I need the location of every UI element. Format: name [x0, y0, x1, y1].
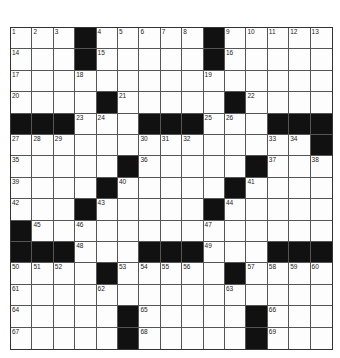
grid-cell[interactable]: [118, 135, 139, 156]
grid-cell[interactable]: [97, 135, 118, 156]
grid-cell[interactable]: 47: [204, 221, 225, 242]
grid-cell[interactable]: 3: [54, 28, 75, 49]
grid-cell[interactable]: [182, 328, 203, 349]
grid-cell[interactable]: 18: [75, 71, 96, 92]
grid-cell[interactable]: [204, 263, 225, 284]
grid-cell[interactable]: [289, 199, 310, 220]
grid-cell[interactable]: 65: [139, 306, 160, 327]
grid-cell[interactable]: [97, 242, 118, 263]
grid-cell[interactable]: [118, 49, 139, 70]
grid-cell[interactable]: [139, 199, 160, 220]
grid-cell[interactable]: [75, 156, 96, 177]
grid-cell[interactable]: [32, 178, 53, 199]
grid-cell[interactable]: [139, 71, 160, 92]
grid-cell[interactable]: 13: [311, 28, 332, 49]
grid-cell[interactable]: 52: [54, 263, 75, 284]
grid-cell[interactable]: 25: [204, 114, 225, 135]
grid-cell[interactable]: [54, 92, 75, 113]
grid-cell[interactable]: 48: [75, 242, 96, 263]
grid-cell[interactable]: [204, 135, 225, 156]
grid-cell[interactable]: 12: [289, 28, 310, 49]
grid-cell[interactable]: [161, 328, 182, 349]
grid-cell[interactable]: [246, 135, 267, 156]
grid-cell[interactable]: [182, 156, 203, 177]
grid-cell[interactable]: [246, 49, 267, 70]
grid-cell[interactable]: [182, 49, 203, 70]
grid-cell[interactable]: [289, 92, 310, 113]
grid-cell[interactable]: [225, 135, 246, 156]
grid-cell[interactable]: [161, 71, 182, 92]
grid-cell[interactable]: 33: [268, 135, 289, 156]
grid-cell[interactable]: 32: [182, 135, 203, 156]
grid-cell[interactable]: 23: [75, 114, 96, 135]
grid-cell[interactable]: 60: [311, 263, 332, 284]
grid-cell[interactable]: [289, 178, 310, 199]
grid-cell[interactable]: [161, 178, 182, 199]
grid-cell[interactable]: [139, 285, 160, 306]
grid-cell[interactable]: [161, 49, 182, 70]
grid-cell[interactable]: [246, 71, 267, 92]
grid-cell[interactable]: [204, 306, 225, 327]
grid-cell[interactable]: [139, 178, 160, 199]
grid-cell[interactable]: [311, 328, 332, 349]
grid-cell[interactable]: 49: [204, 242, 225, 263]
grid-cell[interactable]: [289, 156, 310, 177]
grid-cell[interactable]: 10: [246, 28, 267, 49]
grid-cell[interactable]: [118, 199, 139, 220]
grid-cell[interactable]: 36: [139, 156, 160, 177]
grid-cell[interactable]: [246, 221, 267, 242]
grid-cell[interactable]: [311, 92, 332, 113]
grid-cell[interactable]: 1: [11, 28, 32, 49]
grid-cell[interactable]: [118, 71, 139, 92]
grid-cell[interactable]: [182, 285, 203, 306]
grid-cell[interactable]: [268, 285, 289, 306]
grid-cell[interactable]: [268, 92, 289, 113]
grid-cell[interactable]: 67: [11, 328, 32, 349]
grid-cell[interactable]: 17: [11, 71, 32, 92]
grid-cell[interactable]: [311, 306, 332, 327]
grid-cell[interactable]: [268, 178, 289, 199]
grid-cell[interactable]: [118, 221, 139, 242]
grid-cell[interactable]: [204, 328, 225, 349]
grid-cell[interactable]: [75, 285, 96, 306]
grid-cell[interactable]: 54: [139, 263, 160, 284]
grid-cell[interactable]: 20: [11, 92, 32, 113]
grid-cell[interactable]: 45: [32, 221, 53, 242]
grid-cell[interactable]: 55: [161, 263, 182, 284]
grid-cell[interactable]: [182, 71, 203, 92]
grid-cell[interactable]: [311, 71, 332, 92]
grid-cell[interactable]: [54, 199, 75, 220]
grid-cell[interactable]: [32, 285, 53, 306]
grid-cell[interactable]: 19: [204, 71, 225, 92]
grid-cell[interactable]: [311, 199, 332, 220]
grid-cell[interactable]: [182, 92, 203, 113]
grid-cell[interactable]: 6: [139, 28, 160, 49]
grid-cell[interactable]: 8: [182, 28, 203, 49]
grid-cell[interactable]: [161, 285, 182, 306]
grid-cell[interactable]: [289, 306, 310, 327]
grid-cell[interactable]: [32, 156, 53, 177]
grid-cell[interactable]: [54, 49, 75, 70]
grid-cell[interactable]: [289, 285, 310, 306]
grid-cell[interactable]: 68: [139, 328, 160, 349]
grid-cell[interactable]: 27: [11, 135, 32, 156]
grid-cell[interactable]: 15: [97, 49, 118, 70]
grid-cell[interactable]: [268, 71, 289, 92]
grid-cell[interactable]: [268, 221, 289, 242]
grid-cell[interactable]: [311, 285, 332, 306]
grid-cell[interactable]: 63: [225, 285, 246, 306]
grid-cell[interactable]: [204, 178, 225, 199]
grid-cell[interactable]: [75, 135, 96, 156]
grid-cell[interactable]: [139, 49, 160, 70]
grid-cell[interactable]: [32, 306, 53, 327]
grid-cell[interactable]: [32, 199, 53, 220]
grid-cell[interactable]: 35: [11, 156, 32, 177]
grid-cell[interactable]: [161, 156, 182, 177]
grid-cell[interactable]: 40: [118, 178, 139, 199]
grid-cell[interactable]: [268, 199, 289, 220]
grid-cell[interactable]: 22: [246, 92, 267, 113]
grid-cell[interactable]: [311, 178, 332, 199]
grid-cell[interactable]: [246, 114, 267, 135]
grid-cell[interactable]: [289, 49, 310, 70]
grid-cell[interactable]: 7: [161, 28, 182, 49]
